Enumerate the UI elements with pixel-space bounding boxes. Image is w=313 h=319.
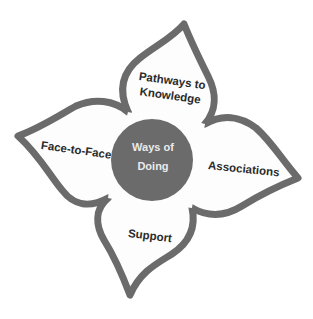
center-label-line1: Ways of — [117, 138, 189, 157]
center-label: Ways of Doing — [117, 138, 189, 176]
center-label-line2: Doing — [117, 157, 189, 176]
ways-of-doing-diagram: Ways of Doing Pathways to Knowledge Face… — [0, 0, 313, 319]
petal-bottom-outline — [98, 198, 193, 295]
